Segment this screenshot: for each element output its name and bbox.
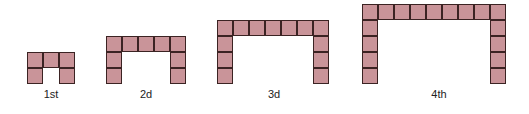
tile-square bbox=[313, 20, 329, 36]
tile-square bbox=[490, 20, 506, 36]
tile-square bbox=[106, 52, 122, 68]
tile-square bbox=[59, 68, 75, 84]
tile-square bbox=[313, 68, 329, 84]
tile-square bbox=[217, 52, 233, 68]
tile-square bbox=[442, 4, 458, 20]
tile-square bbox=[378, 4, 394, 20]
tile-square bbox=[233, 20, 249, 36]
tile-square bbox=[43, 52, 59, 68]
figure-label-3d: 3d bbox=[268, 88, 280, 100]
tile-square bbox=[138, 36, 154, 52]
tile-square bbox=[217, 68, 233, 84]
figure-label-4th: 4th bbox=[431, 88, 446, 100]
tile-square bbox=[249, 20, 265, 36]
tile-square bbox=[362, 68, 378, 84]
tile-square bbox=[217, 36, 233, 52]
tile-square bbox=[410, 4, 426, 20]
tile-square bbox=[474, 4, 490, 20]
tile-square bbox=[490, 4, 506, 20]
tile-square bbox=[362, 36, 378, 52]
tile-square bbox=[490, 36, 506, 52]
tile-square bbox=[426, 4, 442, 20]
tile-square bbox=[362, 20, 378, 36]
tile-square bbox=[394, 4, 410, 20]
tile-square bbox=[313, 52, 329, 68]
tile-square bbox=[154, 36, 170, 52]
tile-square bbox=[362, 52, 378, 68]
tile-square bbox=[170, 36, 186, 52]
tile-square bbox=[297, 20, 313, 36]
tile-square bbox=[313, 36, 329, 52]
tile-square bbox=[106, 36, 122, 52]
figure-label-1st: 1st bbox=[44, 88, 59, 100]
tile-square bbox=[170, 68, 186, 84]
tile-square bbox=[106, 68, 122, 84]
tile-square bbox=[122, 36, 138, 52]
tile-square bbox=[27, 68, 43, 84]
tile-square bbox=[362, 4, 378, 20]
figure-label-2d: 2d bbox=[140, 88, 152, 100]
tile-square bbox=[217, 20, 233, 36]
tile-square bbox=[59, 52, 75, 68]
tile-square bbox=[265, 20, 281, 36]
tile-square bbox=[281, 20, 297, 36]
tile-square bbox=[490, 52, 506, 68]
tile-square bbox=[458, 4, 474, 20]
tile-square bbox=[170, 52, 186, 68]
tile-square bbox=[490, 68, 506, 84]
tile-square bbox=[27, 52, 43, 68]
